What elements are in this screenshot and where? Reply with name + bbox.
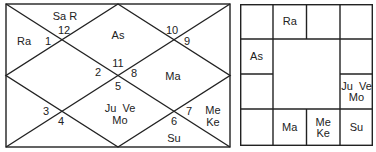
house-5-planets: Ju Ve Mo (105, 102, 136, 126)
south-cell-taurus (307, 4, 341, 39)
house-7-planets: Me Ke (205, 104, 220, 128)
house-number-7: 7 (186, 106, 192, 117)
house-number-11: 11 (112, 58, 123, 69)
house-number-1: 1 (45, 36, 51, 47)
south-cell-capricorn (240, 74, 273, 109)
south-cell-leo: Ju Ve Mo (340, 74, 373, 109)
south-indian-chart: Ra As Ju Ve Mo Ma Me Ke Su (240, 4, 373, 146)
south-cell-libra: Me Ke (307, 109, 341, 146)
south-cell-gemini (340, 4, 373, 39)
house-number-5: 5 (115, 81, 121, 92)
south-cell-aries: Ra (273, 4, 307, 39)
south-cell-sagittarius (240, 109, 273, 146)
house-number-12: 12 (58, 25, 70, 36)
south-cell-scorpio: Ma (273, 109, 307, 146)
south-cell-pisces (240, 4, 273, 39)
house-number-9: 9 (184, 36, 190, 47)
house-8-planets: Ma (165, 71, 180, 82)
house-number-3: 3 (43, 106, 49, 117)
house-number-4: 4 (58, 116, 64, 127)
house-1-planets: Ra (17, 36, 31, 47)
house-number-2: 2 (95, 67, 101, 78)
house-6-planets: Su (167, 133, 180, 144)
south-cell-cancer (340, 39, 373, 74)
house-11-planets: As (112, 30, 125, 41)
house-number-6: 6 (171, 116, 177, 127)
south-cell-aquarius: As (240, 39, 273, 74)
house-number-8: 8 (131, 68, 137, 79)
south-cell-virgo: Su (340, 109, 373, 146)
house-12-planets: Sa R (53, 11, 77, 22)
house-number-10: 10 (166, 25, 178, 36)
